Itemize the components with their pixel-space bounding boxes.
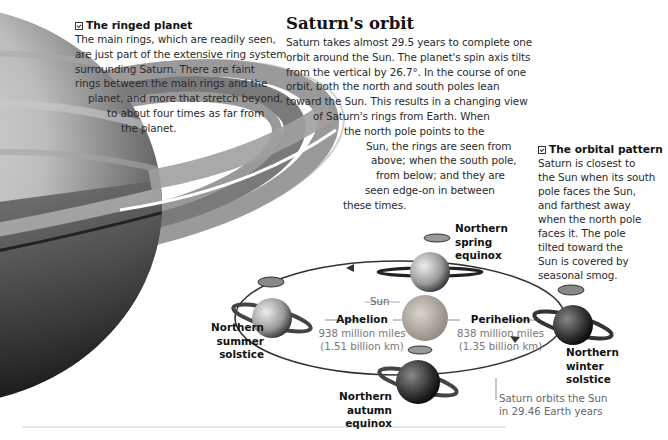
text-line: surrounding Saturn. There are faint (75, 62, 285, 77)
orbital-pattern-section: The orbital pattern Saturn is closest to… (538, 142, 668, 282)
text-line: of Saturn's rings from Earth. When (286, 109, 526, 124)
text-line: when the north pole (538, 212, 668, 226)
text-line: tilted toward the (538, 240, 668, 254)
orbit-period-caption: Saturn orbits the Sun in 29.46 Earth yea… (499, 392, 607, 418)
label-spring-equinox: Northern spring equinox (455, 222, 508, 263)
text-line: orbit, both the north and south poles le… (286, 79, 526, 94)
text-line: the planet. (75, 121, 285, 136)
text-line: faces it. The pole (538, 226, 668, 240)
text-line: the Sun when its south (538, 170, 668, 184)
text-line: to about four times as far from (75, 106, 285, 121)
ringed-planet-heading: The ringed planet (75, 18, 285, 32)
orbital-pattern-heading: The orbital pattern (538, 142, 668, 156)
label-winter-solstice: Northern winter solstice (566, 346, 619, 387)
text-line: above; when the south pole, (286, 153, 526, 168)
text-line: seasonal smog. (538, 268, 668, 282)
text-line: pole faces the Sun, (538, 184, 668, 198)
text-line: Saturn is closest to (538, 156, 668, 170)
sun-label: Sun (370, 295, 389, 308)
text-line: are just part of the extensive ring syst… (75, 47, 285, 62)
text-line: seen edge-on in between (286, 183, 526, 198)
label-summer-solstice: Northern summer solstice (190, 321, 264, 362)
text-line: Sun, the rings are seen from (286, 139, 526, 154)
checkbox-icon (538, 146, 546, 154)
text-line: orbit around the Sun. The planet's spin … (286, 50, 526, 65)
checkbox-icon (75, 22, 83, 30)
orbit-section: Saturn's orbit Saturn takes almost 29.5 … (286, 14, 526, 213)
page-title: Saturn's orbit (286, 14, 526, 34)
text-line: Saturn takes almost 29.5 years to comple… (286, 35, 526, 50)
text-line: from the vertical by 26.7°. In the cours… (286, 65, 526, 80)
text-line: these times. (286, 198, 526, 213)
aphelion-label: Aphelion 938 million miles (1.51 billion… (312, 313, 412, 353)
label-autumn-equinox: Northern autumn equinox (300, 390, 392, 431)
text-line: rings between the main rings and the (75, 76, 285, 91)
perihelion-label: Perihelion 838 million miles (1.35 billi… (448, 313, 553, 353)
text-line: from below; and they are (286, 168, 526, 183)
text-line: Sun is covered by (538, 254, 668, 268)
text-line: the north pole points to the (286, 124, 526, 139)
text-line: planet, and more that stretch beyond, (75, 91, 285, 106)
ringed-planet-section: The ringed planet The main rings, which … (75, 18, 285, 136)
text-line: toward the Sun. This results in a changi… (286, 94, 526, 109)
text-line: The main rings, which are readily seen, (75, 32, 285, 47)
text-line: and farthest away (538, 198, 668, 212)
